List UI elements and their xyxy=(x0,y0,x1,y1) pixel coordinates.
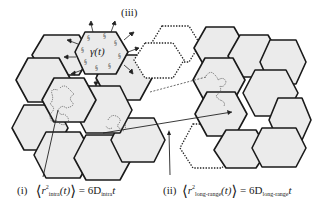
label-i: (i) xyxy=(17,184,27,196)
formula-intra-coef: = 6D xyxy=(79,184,101,196)
formula-long-range: (ii) ⟨r2long-range(t)⟩ = 6Dlong-ranget xyxy=(163,182,292,200)
pointer-line-ii xyxy=(169,132,170,175)
formula-lr-coef: = 6D xyxy=(240,184,262,196)
formula-lr-sub: long-range xyxy=(195,191,221,197)
formula-lr-t: t xyxy=(289,184,292,196)
formula-intra-rhs-sub: intra xyxy=(101,191,112,197)
formula-lr-sup: 2 xyxy=(192,184,195,190)
svg-text:§: § xyxy=(108,62,111,69)
formula-intra-t: t xyxy=(112,184,115,196)
svg-text:§: § xyxy=(118,52,121,59)
formula-intra-arg: (t) xyxy=(60,184,70,196)
formula-intra-sup: 2 xyxy=(46,184,49,190)
formula-lr-rhs-sub: long-range xyxy=(263,191,289,197)
formula-intra: (i) ⟨r2intra(t)⟩ = 6Dintrat xyxy=(17,182,115,200)
label-ii: (ii) xyxy=(163,184,176,196)
formula-intra-sub: intra xyxy=(49,191,60,197)
label-gamma: γ(t) xyxy=(90,45,105,57)
formula-lr-arg: (t) xyxy=(221,184,231,196)
svg-text:§: § xyxy=(87,34,90,41)
svg-text:§: § xyxy=(95,64,98,71)
svg-text:§: § xyxy=(84,58,87,65)
svg-text:§: § xyxy=(81,46,84,53)
svg-text:§: § xyxy=(114,39,117,46)
svg-text:§: § xyxy=(103,32,106,39)
hexagon-diagram: §§§ §§§ §§ xyxy=(0,0,326,209)
label-iii: (iii) xyxy=(121,6,138,18)
